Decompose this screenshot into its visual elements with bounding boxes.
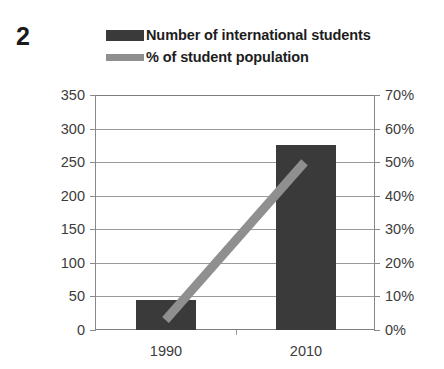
chart-figure: 2 Number of international students % of … bbox=[0, 0, 444, 369]
x-tick-mark bbox=[236, 330, 237, 335]
y-tick-label-right: 40% bbox=[385, 189, 414, 204]
y-tick-label-left: 350 bbox=[61, 88, 85, 103]
legend-label-line: % of student population bbox=[146, 49, 309, 65]
legend-item-bar: Number of international students bbox=[106, 24, 426, 46]
legend-swatch-bar-icon bbox=[106, 30, 144, 41]
plot-area: 050100150200250300350 0%10%20%30%40%50%6… bbox=[95, 95, 375, 330]
line-path bbox=[166, 162, 305, 320]
y-tick-label-right: 30% bbox=[385, 222, 414, 237]
y-tick-right bbox=[374, 162, 380, 163]
y-tick-label-right: 60% bbox=[385, 122, 414, 137]
y-tick-right bbox=[374, 129, 380, 130]
y-tick-label-left: 100 bbox=[61, 256, 85, 271]
y-tick-label-right: 10% bbox=[385, 289, 414, 304]
figure-number: 2 bbox=[16, 24, 29, 49]
legend-item-line: % of student population bbox=[106, 46, 426, 68]
y-tick-label-right: 0% bbox=[385, 323, 406, 338]
x-tick-label-2010: 2010 bbox=[261, 343, 351, 359]
y-tick-right bbox=[374, 196, 380, 197]
y-tick-label-left: 0 bbox=[77, 323, 85, 338]
y-tick-label-left: 150 bbox=[61, 222, 85, 237]
y-tick-right bbox=[374, 296, 380, 297]
y-tick-label-left: 300 bbox=[61, 122, 85, 137]
y-tick-label-right: 70% bbox=[385, 88, 414, 103]
y-tick-right bbox=[374, 95, 380, 96]
line-series bbox=[96, 95, 374, 330]
y-tick-label-left: 50 bbox=[69, 289, 85, 304]
y-tick-right bbox=[374, 330, 380, 331]
legend-label-bar: Number of international students bbox=[146, 27, 371, 43]
y-tick-label-left: 200 bbox=[61, 189, 85, 204]
y-tick-label-left: 250 bbox=[61, 155, 85, 170]
y-tick-right bbox=[374, 229, 380, 230]
y-tick-label-right: 50% bbox=[385, 155, 414, 170]
y-tick-left bbox=[90, 330, 96, 331]
legend-swatch-line-icon bbox=[106, 54, 144, 61]
x-tick-label-1990: 1990 bbox=[121, 343, 211, 359]
chart-legend: Number of international students % of st… bbox=[106, 24, 426, 68]
y-tick-label-right: 20% bbox=[385, 256, 414, 271]
y-tick-right bbox=[374, 263, 380, 264]
